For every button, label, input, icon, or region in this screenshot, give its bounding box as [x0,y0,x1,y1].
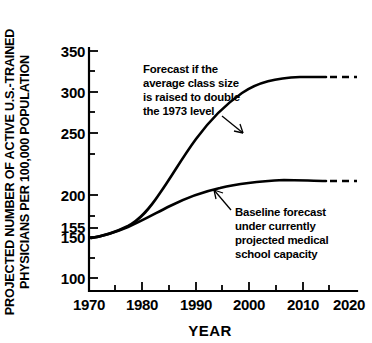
y-tick-label-350: 350 [61,43,85,60]
lower-annotation-line-1: Baseline forecast [235,206,326,218]
y-tick-label-100: 100 [61,270,85,287]
y-axis-title-line2: PHYSICIANS PER 100,000 POPULATION [18,55,32,289]
y-axis-title-line1: PROJECTED NUMBER OF ACTIVE U.S.-TRAINED [3,29,17,315]
lower-annotation-line-3: projected medical [235,234,328,246]
x-tick-label-2000: 2000 [233,296,265,313]
y-tick-label-150: 150 [61,229,85,246]
upper-annotation-line-4: the 1973 level [143,105,214,117]
upper-annotation-line-3: is raised to double [143,91,240,103]
y-tick-label-200: 200 [61,187,85,204]
chart-figure: PROJECTED NUMBER OF ACTIVE U.S.-TRAINED … [0,0,372,343]
y-tick-label-250: 250 [61,125,85,142]
x-tick-label-1970: 1970 [73,296,105,313]
x-axis-title: YEAR [188,322,232,339]
upper-annotation-line-1: Forecast if the [143,63,218,75]
y-axis-title: PROJECTED NUMBER OF ACTIVE U.S.-TRAINED … [3,29,32,315]
x-tick-label-1980: 1980 [126,296,158,313]
x-tick-label-1990: 1990 [180,296,212,313]
lower-annotation-line-2: under currently [235,220,316,232]
lower-annotation-line-4: school capacity [235,248,318,260]
x-tick-label-2020: 2020 [333,296,365,313]
y-tick-label-300: 300 [61,84,85,101]
x-tick-label-2010: 2010 [287,296,319,313]
upper-annotation-line-2: average class size [143,77,239,89]
